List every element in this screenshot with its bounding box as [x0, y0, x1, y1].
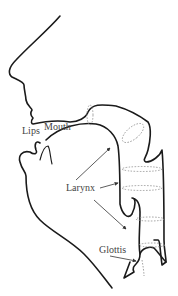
- label-glottis: Glottis: [99, 244, 126, 255]
- vocal-tract-diagram: Lips Mouth Larynx Glottis: [0, 0, 178, 296]
- face-profile-outline: [9, 16, 166, 265]
- glottis-arrow: [110, 256, 136, 261]
- larynx-arrow-middle: [100, 183, 118, 188]
- label-mouth: Mouth: [44, 121, 71, 132]
- lower-lip-inner: [40, 146, 52, 164]
- chin-neck-outline: [19, 142, 112, 288]
- larynx-arrow-lower: [94, 200, 126, 229]
- larynx-arrow-upper: [76, 148, 110, 180]
- label-larynx: Larynx: [66, 182, 95, 193]
- label-lips: Lips: [22, 125, 40, 136]
